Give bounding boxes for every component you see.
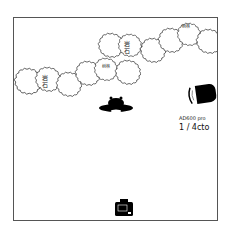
clip-mask (218, 17, 228, 229)
light-model-label: AD600 pro (179, 115, 206, 121)
foliage-label: 岩石 (41, 74, 49, 88)
frame-right-edge (217, 17, 218, 221)
subject-icon (99, 97, 133, 113)
camera-icon (115, 199, 133, 216)
foliage-label: 树林 (182, 24, 190, 29)
light-modifier-label: 1 / 4cto (179, 123, 209, 132)
foliage-label: 岩石 (123, 40, 131, 54)
light-icon (188, 83, 217, 105)
foliage-label: 树林 (102, 64, 110, 69)
